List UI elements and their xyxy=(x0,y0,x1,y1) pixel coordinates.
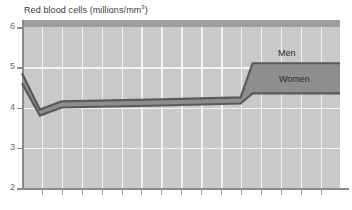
series-label-men: Men xyxy=(278,48,296,58)
chart-figure: Red blood cells (millions/mm3) 6 5 4 3 2 xyxy=(0,0,352,210)
data-band-group xyxy=(0,0,352,210)
series-label-women: Women xyxy=(279,74,310,84)
